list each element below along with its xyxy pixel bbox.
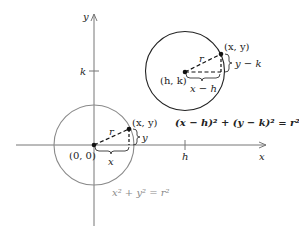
origin-point-label: (x, y) [132, 117, 158, 128]
origin-circle-point [127, 127, 132, 132]
shifted-circle-equation: (x − h)² + (y − k)² = r² [175, 117, 299, 128]
y-axis-label: y [82, 11, 89, 22]
h-tick-label: h [182, 151, 188, 162]
k-tick-label: k [80, 66, 86, 77]
shifted-x-leg-label: x − h [190, 83, 217, 94]
origin-x-leg-label: x [108, 156, 114, 167]
shifted-center-point [183, 70, 188, 75]
shifted-y-leg-label: y − k [234, 58, 261, 69]
shifted-x-brace [186, 74, 220, 81]
circle-equation-diagram: x y k h (0, 0) (x, y) r x y x² + y² = r²… [0, 0, 299, 238]
origin-x-brace [95, 147, 129, 154]
origin-circle-equation: x² + y² = r² [112, 187, 170, 198]
origin-center-point [92, 143, 97, 148]
shifted-center-label: (h, k) [160, 75, 187, 86]
shifted-circle-point [219, 52, 224, 57]
origin-center-label: (0, 0) [69, 150, 96, 161]
shifted-y-brace [225, 54, 232, 72]
x-axis-label: x [259, 151, 265, 162]
shifted-point-label: (x, y) [224, 41, 250, 52]
origin-y-leg-label: y [141, 132, 148, 143]
